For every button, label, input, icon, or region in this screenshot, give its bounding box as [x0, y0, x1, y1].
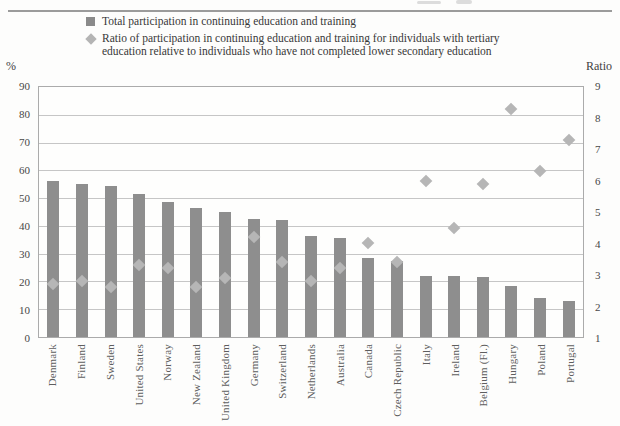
- bar-czech-republic: [391, 261, 403, 337]
- bar-sweden: [105, 186, 117, 337]
- left-tick-label-0: 0: [25, 332, 31, 344]
- gridline-60: [39, 170, 583, 171]
- left-axis-title: %: [6, 59, 16, 74]
- right-tick-label-8: 8: [595, 112, 601, 124]
- left-tick-label-80: 80: [19, 108, 30, 120]
- right-tick-label-1: 1: [595, 332, 601, 344]
- x-label-united-kingdom: United Kingdom: [219, 344, 231, 421]
- ratio-point-canada: [362, 237, 375, 250]
- left-tick-label-60: 60: [19, 164, 30, 176]
- right-tick-label-6: 6: [595, 175, 601, 187]
- ratio-point-hungary: [505, 103, 518, 116]
- bar-australia: [334, 238, 346, 337]
- x-axis-labels: DenmarkFinlandSwedenUnited StatesNorwayN…: [38, 344, 584, 426]
- legend-label-line1: Ratio of participation in continuing edu…: [102, 32, 500, 46]
- bar-hungary: [505, 286, 517, 337]
- bar-portugal: [563, 301, 575, 337]
- gridline-50: [39, 198, 583, 199]
- left-tick-label-10: 10: [19, 304, 30, 316]
- x-label-portugal: Portugal: [564, 344, 576, 383]
- right-tick-label-5: 5: [595, 206, 601, 218]
- x-label-australia: Australia: [334, 344, 346, 386]
- x-label-belgium-fl: Belgium (Fl.): [477, 344, 489, 407]
- bar-canada: [362, 258, 374, 337]
- x-label-united-states: United States: [133, 344, 145, 406]
- x-label-poland: Poland: [535, 344, 547, 376]
- ratio-point-poland: [534, 165, 547, 178]
- x-label-netherlands: Netherlands: [305, 344, 317, 399]
- ratio-point-italy: [419, 174, 432, 187]
- x-label-finland: Finland: [75, 344, 87, 379]
- x-label-switzerland: Switzerland: [276, 344, 288, 399]
- right-tick-label-9: 9: [595, 80, 601, 92]
- x-label-new-zealand: New Zealand: [190, 344, 202, 405]
- diamond-icon: [85, 33, 96, 44]
- gridline-70: [39, 143, 583, 144]
- plot-area: [38, 86, 584, 338]
- chart-page: Total participation in continuing educat…: [0, 0, 620, 426]
- ratio-point-belgium-fl: [476, 178, 489, 191]
- legend-label: Total participation in continuing educat…: [102, 15, 356, 29]
- right-tick-label-4: 4: [595, 238, 601, 250]
- right-axis-ticks: 123456789: [589, 86, 617, 338]
- left-tick-label-70: 70: [19, 136, 30, 148]
- x-label-ireland: Ireland: [449, 344, 461, 377]
- left-tick-label-20: 20: [19, 276, 30, 288]
- gridline-80: [39, 115, 583, 116]
- right-tick-label-2: 2: [595, 301, 601, 313]
- right-axis-title: Ratio: [586, 59, 612, 74]
- cropped-header-remnant: [456, 0, 472, 4]
- bar-ireland: [448, 276, 460, 337]
- x-label-germany: Germany: [248, 344, 260, 386]
- bar-denmark: [47, 181, 59, 337]
- x-label-sweden: Sweden: [104, 344, 116, 380]
- top-horizontal-rule: [8, 10, 612, 12]
- x-label-norway: Norway: [161, 344, 173, 381]
- bar-italy: [420, 276, 432, 337]
- left-tick-label-30: 30: [19, 248, 30, 260]
- x-label-canada: Canada: [362, 344, 374, 378]
- bar-switzerland: [276, 220, 288, 337]
- x-label-italy: Italy: [420, 344, 432, 365]
- gridline-40: [39, 226, 583, 227]
- right-tick-label-3: 3: [595, 269, 601, 281]
- bar-poland: [534, 298, 546, 337]
- left-tick-label-90: 90: [19, 80, 30, 92]
- bar-finland: [76, 184, 88, 337]
- x-label-denmark: Denmark: [46, 344, 58, 386]
- legend: Total participation in continuing educat…: [86, 15, 586, 62]
- bar-new-zealand: [190, 208, 202, 337]
- bar-belgium-fl: [477, 277, 489, 337]
- ratio-point-portugal: [562, 134, 575, 147]
- legend-item-ratio: Ratio of participation in continuing edu…: [86, 32, 586, 59]
- legend-label-line2: education relative to individuals who ha…: [102, 45, 500, 59]
- legend-item-bars: Total participation in continuing educat…: [86, 15, 586, 29]
- x-label-czech-republic: Czech Republic: [391, 344, 403, 417]
- ratio-point-ireland: [448, 221, 461, 234]
- left-tick-label-50: 50: [19, 192, 30, 204]
- x-label-hungary: Hungary: [506, 344, 518, 384]
- left-axis-ticks: 0102030405060708090: [0, 86, 33, 338]
- left-tick-label-40: 40: [19, 220, 30, 232]
- legend-label: Ratio of participation in continuing edu…: [102, 32, 500, 59]
- cropped-header-remnant: [417, 1, 441, 4]
- square-icon: [86, 17, 95, 26]
- right-tick-label-7: 7: [595, 143, 601, 155]
